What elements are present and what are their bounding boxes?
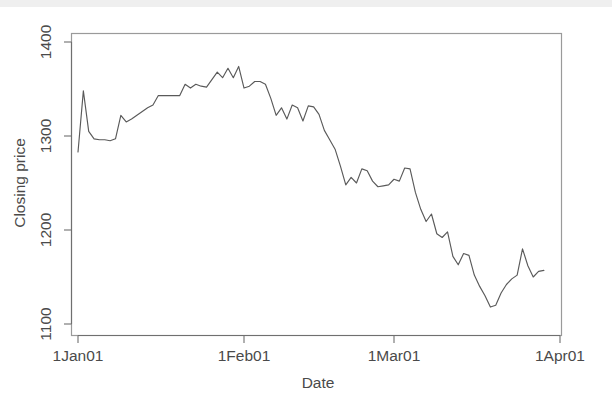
chart-figure: 1400 1300 1200 1100 Closing price 1Jan01…: [0, 0, 612, 413]
y-tick-label-1200: 1200: [37, 212, 54, 247]
x-tick-label-mar: 1Mar01: [368, 347, 421, 364]
price-series-line: [78, 66, 544, 307]
plot-frame: [72, 34, 562, 336]
x-axis-title: Date: [302, 374, 335, 391]
x-tick-label-jan: 1Jan01: [53, 347, 104, 364]
y-tick-label-1300: 1300: [37, 118, 54, 153]
y-axis-ticks: [64, 42, 72, 324]
x-tick-label-feb: 1Feb01: [218, 347, 271, 364]
line-chart-svg: 1400 1300 1200 1100 Closing price 1Jan01…: [0, 0, 612, 413]
y-tick-label-1400: 1400: [37, 24, 54, 59]
x-tick-label-apr: 1Apr01: [535, 347, 585, 364]
x-axis-ticks: [78, 336, 560, 344]
y-tick-label-1100: 1100: [37, 307, 54, 341]
y-axis-title: Closing price: [11, 138, 28, 228]
